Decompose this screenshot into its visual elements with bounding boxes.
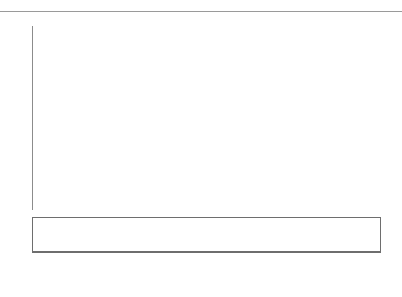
header-divider [0, 11, 402, 12]
waveform-plot [32, 26, 381, 210]
annotation-tier [32, 217, 381, 252]
waveform-svg [32, 26, 381, 210]
x-axis-line [32, 252, 381, 253]
